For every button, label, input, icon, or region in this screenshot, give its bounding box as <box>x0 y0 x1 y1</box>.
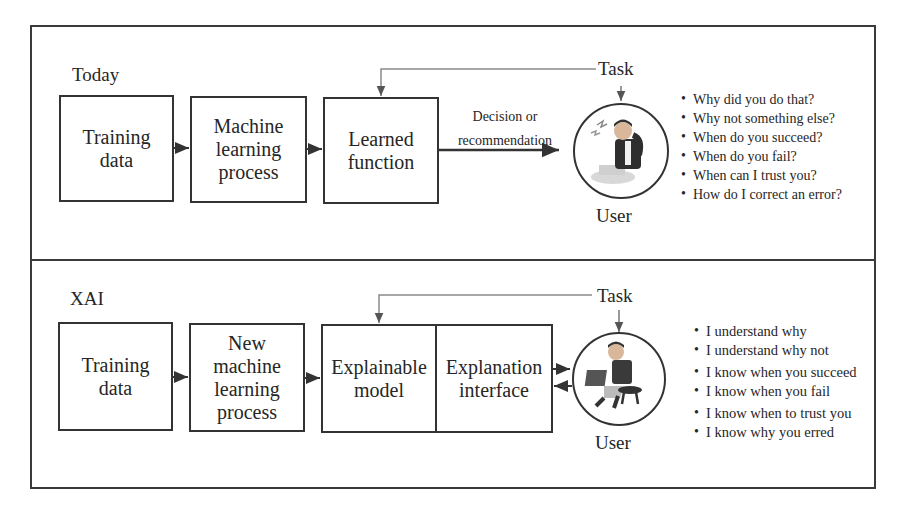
question-item: How do I correct an error? <box>681 185 842 204</box>
box-label: Learned function <box>348 128 415 174</box>
user-label-xai: User <box>595 432 631 454</box>
box-explanation-interface: Explanation interface <box>435 324 553 433</box>
user-label-today: User <box>596 205 632 227</box>
box-label: Explanation interface <box>446 356 543 402</box>
box-label: New machine learning process <box>213 332 281 424</box>
statement-item: I know when you succeed <box>694 363 857 382</box>
box-new-machine-learning-process: New machine learning process <box>189 323 305 432</box>
question-item: When can I trust you? <box>681 166 842 185</box>
statement-item: I know when to trust you <box>694 404 857 423</box>
question-item: When do you fail? <box>681 147 842 166</box>
statement-item: I understand why <box>694 322 857 341</box>
statement-item: I know why you erred <box>694 423 857 442</box>
question-item: Why not something else? <box>681 109 842 128</box>
question-item: When do you succeed? <box>681 128 842 147</box>
user-questions-list: Why did you do that? Why not something e… <box>681 90 842 204</box>
decision-edge-label: Decision or recommendation <box>445 105 565 153</box>
box-explainable-model: Explainable model <box>321 324 437 433</box>
confused-user-icon <box>575 105 667 197</box>
user-statements-list: I understand why I understand why not I … <box>694 322 857 442</box>
box-training-data: Training data <box>59 95 174 202</box>
statement-item: I understand why not <box>694 341 857 360</box>
box-label: Training data <box>81 354 149 400</box>
task-label-today: Task <box>598 58 634 80</box>
box-learned-function: Learned function <box>323 97 439 204</box>
user-circle-today <box>573 103 669 199</box>
box-training-data-xai: Training data <box>58 322 173 431</box>
box-label: Training data <box>82 126 150 172</box>
section-label-today: Today <box>72 64 119 86</box>
box-label: Explainable model <box>331 356 427 402</box>
box-machine-learning-process: Machine learning process <box>190 96 307 203</box>
statement-item: I know when you fail <box>694 382 857 401</box>
question-item: Why did you do that? <box>681 90 842 109</box>
user-circle-xai <box>572 332 666 426</box>
satisfied-user-icon <box>574 334 664 424</box>
task-label-xai: Task <box>597 285 633 307</box>
box-label: Machine learning process <box>214 115 284 184</box>
section-label-xai: XAI <box>70 288 104 310</box>
